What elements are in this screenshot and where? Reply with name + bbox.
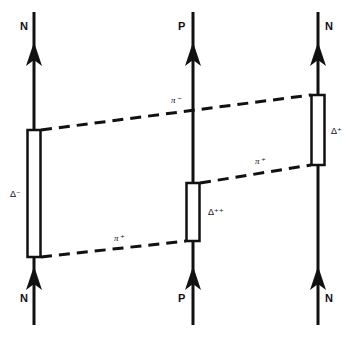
delta-minus-box: [28, 130, 41, 257]
diagram-canvas: [0, 0, 350, 337]
label-middle-top: P: [178, 21, 185, 32]
delta-plus-plus-box: [187, 183, 200, 241]
label-pion-plus-lower: π⁺: [114, 234, 124, 243]
label-left-top: N: [20, 21, 28, 32]
pion-plus-upper-line: [200, 165, 311, 183]
label-middle-bottom: P: [178, 293, 185, 304]
label-delta-plus-plus: Δ⁺⁺: [208, 208, 224, 217]
label-right-top: N: [325, 21, 333, 32]
label-delta-plus: Δ⁺: [331, 127, 342, 136]
pion-plus-lower-line: [41, 241, 186, 257]
label-pion-minus: π⁻: [171, 96, 181, 105]
label-delta-minus: Δ⁻: [10, 190, 21, 199]
label-right-bottom: N: [325, 293, 333, 304]
delta-plus-box: [312, 95, 325, 165]
label-pion-plus-upper: π⁺: [255, 157, 265, 166]
label-left-bottom: N: [20, 293, 28, 304]
